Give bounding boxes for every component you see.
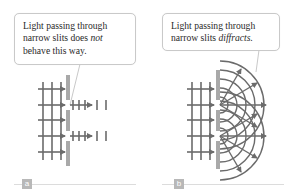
- callout-line-2-text: narrow slits does: [23, 32, 90, 43]
- slit-barrier: [216, 70, 220, 169]
- callout-emphasis: not: [90, 32, 102, 43]
- callout-line-1: Light passing through: [171, 20, 272, 32]
- panel-b-label: b: [174, 179, 184, 189]
- callout-pointer: [256, 50, 259, 72]
- callout-line-2: narrow slits does not: [23, 32, 128, 44]
- panel-a-no-diffraction: Light passing through narrow slits does …: [0, 0, 148, 193]
- panel-a-rule: [14, 184, 136, 185]
- panel-a-label: a: [22, 179, 32, 189]
- callout-line-3: behave this way.: [23, 45, 128, 57]
- transmitted-beams: [70, 100, 106, 141]
- callout-pointer: [70, 64, 80, 105]
- callout-emphasis: diffracts.: [218, 32, 252, 43]
- incoming-wavefronts: [192, 82, 210, 160]
- callout-line-1: Light passing through: [23, 20, 128, 32]
- panel-b-diffraction: Light passing through narrow slits diffr…: [148, 0, 296, 193]
- slit-barrier: [66, 75, 70, 166]
- callout-line-2-text: narrow slits: [171, 32, 218, 43]
- callout-diffraction: Light passing through narrow slits diffr…: [162, 13, 280, 51]
- incoming-wavefronts: [43, 82, 61, 160]
- callout-line-2: narrow slits diffracts.: [171, 32, 272, 44]
- callout-no-diffraction: Light passing through narrow slits does …: [14, 13, 136, 65]
